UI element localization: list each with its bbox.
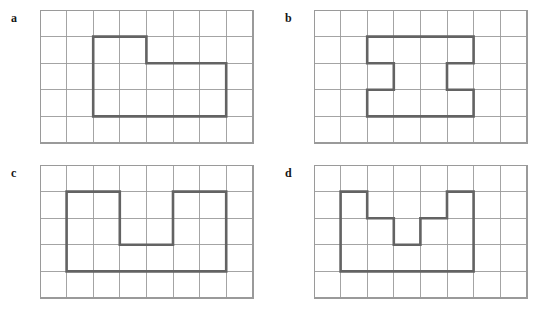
panel-d-shape <box>341 192 474 272</box>
panel-b-svg <box>314 10 528 144</box>
panel-a-gridlines <box>40 10 253 143</box>
panel-a-shape <box>93 37 226 117</box>
panel-c-gridlines <box>40 165 253 298</box>
panel-a: a <box>0 0 274 155</box>
panel-a-svg <box>40 10 254 144</box>
panel-b-gridlines <box>314 10 527 143</box>
panel-b-label: b <box>285 12 292 24</box>
panel-b-grid <box>314 10 528 144</box>
panel-a-label: a <box>11 12 17 24</box>
panel-a-grid <box>40 10 254 144</box>
panel-b: b <box>274 0 548 155</box>
panel-d-grid <box>314 165 528 299</box>
panel-c: c <box>0 155 274 309</box>
panel-c-label: c <box>11 167 16 179</box>
figure-four-grid-shapes: a b <box>0 0 548 309</box>
panel-d-svg <box>314 165 528 299</box>
panel-d: d <box>274 155 548 309</box>
panel-d-label: d <box>285 167 292 179</box>
panel-c-grid <box>40 165 254 299</box>
panel-c-svg <box>40 165 254 299</box>
